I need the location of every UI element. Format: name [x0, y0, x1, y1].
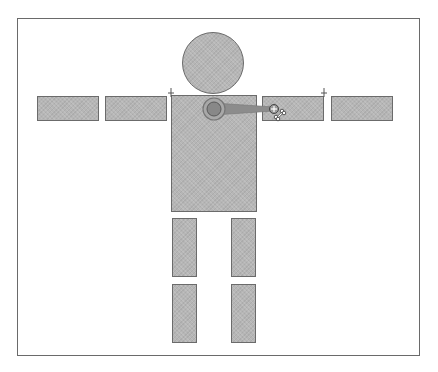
- pivot-marks: [168, 88, 327, 97]
- joint-handle[interactable]: [203, 98, 225, 120]
- bone-tool-cursor-icon: [270, 105, 286, 121]
- rig-overlay: [0, 0, 438, 372]
